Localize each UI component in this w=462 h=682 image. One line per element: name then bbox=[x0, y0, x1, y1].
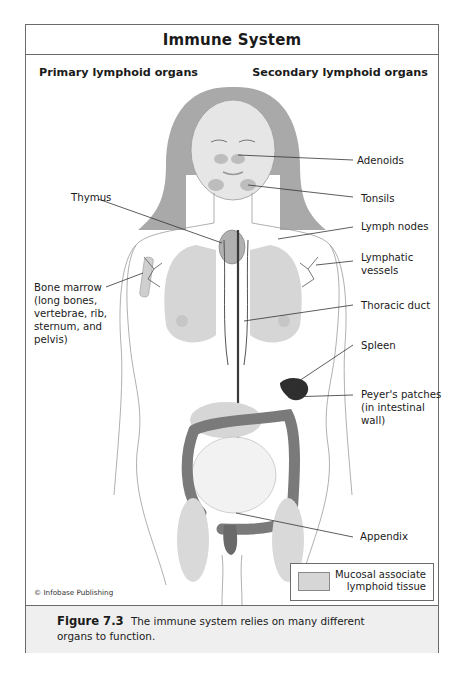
label-appendix: Appendix bbox=[360, 530, 408, 543]
label-peyers-line: Peyer's patches bbox=[361, 388, 441, 401]
label-thoracic-duct: Thoracic duct bbox=[361, 299, 430, 312]
appendix-organ bbox=[223, 525, 237, 555]
label-spleen: Spleen bbox=[361, 339, 396, 352]
lung-left bbox=[164, 245, 216, 342]
copyright-credit: © Infobase Publishing bbox=[34, 588, 113, 597]
small-intestine bbox=[192, 437, 276, 513]
adenoid-left bbox=[214, 154, 228, 164]
label-peyers-line: (in intestinal bbox=[361, 401, 441, 414]
humerus-bone bbox=[139, 257, 153, 298]
label-bone-marrow-line: sternum, and bbox=[34, 320, 107, 333]
legend-text: Mucosal associate lymphoid tissue bbox=[335, 569, 426, 593]
label-lymphatic-vessels: Lymphatic vessels bbox=[361, 251, 413, 277]
label-adenoids: Adenoids bbox=[357, 154, 404, 167]
label-tonsils: Tonsils bbox=[361, 192, 394, 205]
figure-frame: Immune System Primary lymphoid organs Se… bbox=[25, 24, 439, 653]
legend-line: lymphoid tissue bbox=[335, 581, 426, 593]
label-peyers-line: wall) bbox=[361, 414, 441, 427]
label-lymphatic-line: vessels bbox=[361, 264, 413, 277]
legend-line: Mucosal associate bbox=[335, 569, 426, 581]
label-bone-marrow-line: vertebrae, rib, bbox=[34, 307, 107, 320]
label-bone-marrow-line: pelvis) bbox=[34, 333, 107, 346]
figure-number: Figure 7.3 bbox=[57, 614, 124, 628]
label-bone-marrow-line: Bone marrow bbox=[34, 281, 107, 294]
tonsil-left bbox=[208, 179, 224, 191]
caption-text-block: Figure 7.3 The immune system relies on m… bbox=[57, 614, 377, 644]
legend-swatch-malt bbox=[298, 572, 330, 591]
lung-right bbox=[250, 245, 302, 342]
label-bone-marrow: Bone marrow (long bones, vertebrae, rib,… bbox=[34, 281, 107, 346]
figure-caption: Figure 7.3 The immune system relies on m… bbox=[26, 605, 438, 653]
label-lymphatic-line: Lymphatic bbox=[361, 251, 413, 264]
label-bone-marrow-line: (long bones, bbox=[34, 294, 107, 307]
label-thymus: Thymus bbox=[71, 191, 111, 204]
label-lymph-nodes: Lymph nodes bbox=[361, 220, 429, 233]
thymus-organ bbox=[219, 230, 245, 264]
label-peyers-patches: Peyer's patches (in intestinal wall) bbox=[361, 388, 441, 427]
face-shape bbox=[191, 100, 275, 200]
legend: Mucosal associate lymphoid tissue bbox=[290, 563, 434, 601]
